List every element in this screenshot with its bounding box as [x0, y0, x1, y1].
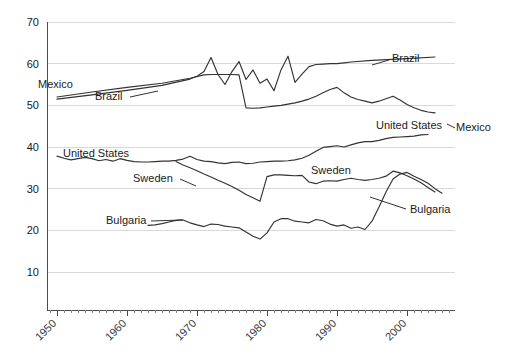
series-label-united-states-4: United States — [63, 147, 130, 159]
y-tick-label-40: 40 — [27, 141, 39, 153]
y-tick-label-50: 50 — [27, 99, 39, 111]
x-tick-label-1950: 1950 — [33, 317, 59, 343]
series-label-bulgaria-9: Bulgaria — [410, 203, 451, 215]
y-tick-label-70: 70 — [27, 16, 39, 28]
x-axis-ticks — [50, 310, 449, 316]
x-tick-label-2000: 2000 — [383, 317, 409, 343]
leader-line-sweden-6 — [180, 179, 196, 186]
series-label-sweden-7: Sweden — [311, 164, 351, 176]
series-label-mexico-0: Mexico — [38, 78, 73, 90]
series-line-bulgaria — [148, 172, 442, 239]
leader-line-bulgaria-8 — [151, 220, 182, 221]
series-label-sweden-6: Sweden — [133, 172, 173, 184]
axes — [47, 22, 455, 310]
x-axis-tick-labels: 195019601970198019902000 — [33, 317, 409, 343]
series-inline-labels: MexicoBrazilBrazilMexicoUnited StatesUni… — [38, 52, 491, 226]
x-tick-label-1990: 1990 — [313, 317, 339, 343]
y-axis-tick-labels: 10203040506070 — [27, 16, 39, 278]
series-label-brazil-2: Brazil — [392, 52, 420, 64]
chart-canvas: 10203040506070 195019601970198019902000 … — [0, 0, 506, 359]
leader-line-mexico-3 — [447, 124, 455, 128]
leader-line-brazil-1 — [130, 91, 158, 97]
line-chart: 10203040506070 195019601970198019902000 … — [0, 0, 506, 359]
series-label-bulgaria-8: Bulgaria — [106, 214, 147, 226]
series-label-united-states-5: United States — [376, 119, 443, 131]
y-tick-label-10: 10 — [27, 266, 39, 278]
x-tick-label-1970: 1970 — [173, 317, 199, 343]
y-tick-label-60: 60 — [27, 58, 39, 70]
series-label-brazil-1: Brazil — [95, 90, 123, 102]
x-tick-label-1980: 1980 — [243, 317, 269, 343]
series-line-sweden — [176, 162, 435, 202]
leader-line-bulgaria-9 — [370, 197, 406, 209]
y-tick-label-20: 20 — [27, 224, 39, 236]
y-tick-label-30: 30 — [27, 183, 39, 195]
x-tick-label-1960: 1960 — [103, 317, 129, 343]
series-label-mexico-3: Mexico — [456, 121, 491, 133]
